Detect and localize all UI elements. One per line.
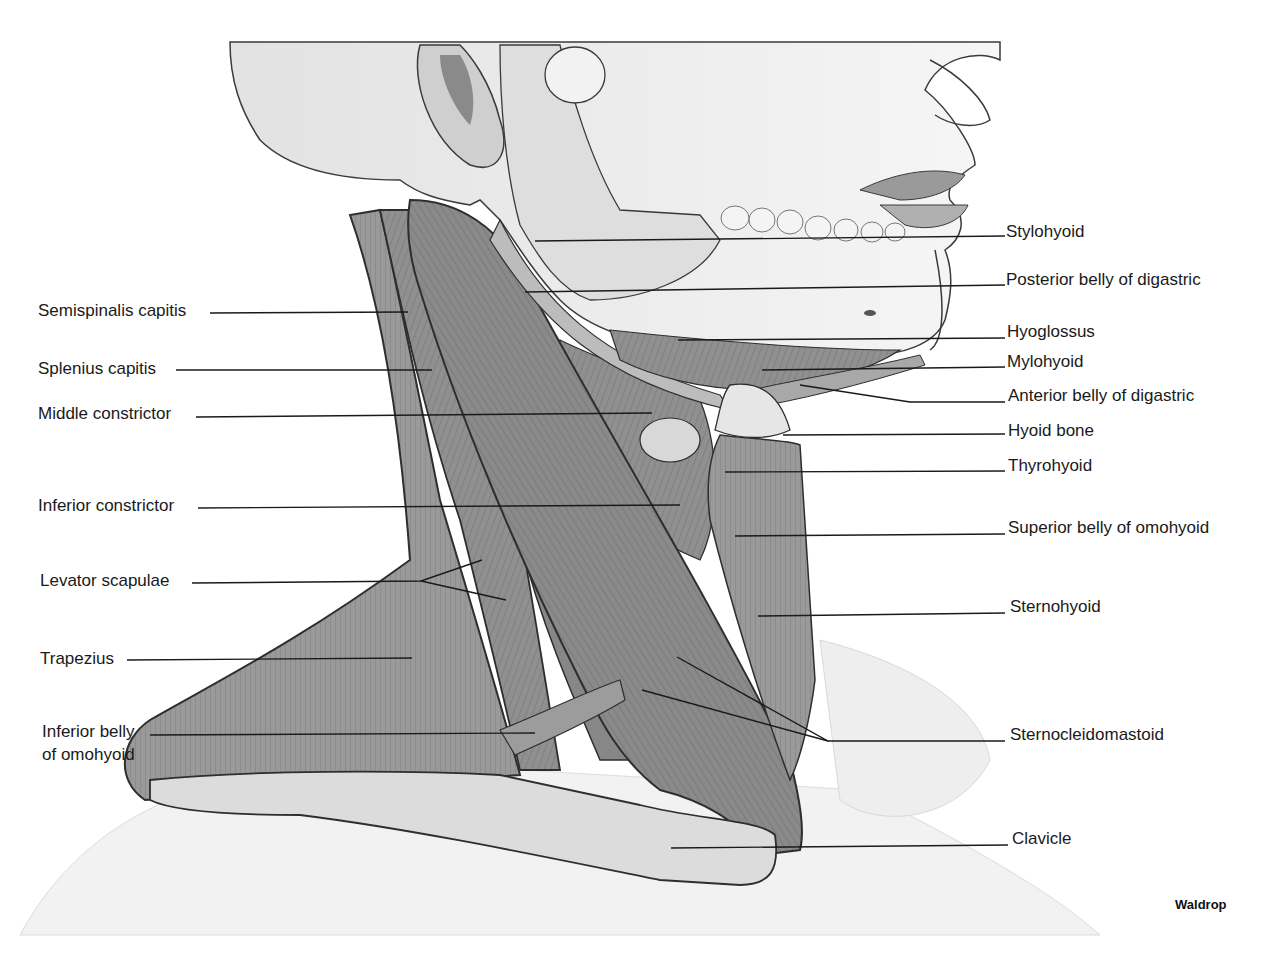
label-semispinalis-capitis: Semispinalis capitis [38, 301, 186, 321]
head-shape [230, 42, 1000, 355]
label-inferior-constrictor: Inferior constrictor [38, 496, 174, 516]
label-levator-scapulae: Levator scapulae [40, 571, 169, 591]
label-splenius-capitis: Splenius capitis [38, 359, 156, 379]
neck-illustration [0, 0, 1269, 955]
label-sternohyoid: Sternohyoid [1010, 597, 1101, 617]
label-sternocleidomastoid: Sternocleidomastoid [1010, 725, 1164, 745]
label-hyoglossus: Hyoglossus [1007, 322, 1095, 342]
label-anterior-belly-digastric: Anterior belly of digastric [1008, 386, 1194, 406]
label-thyrohyoid: Thyrohyoid [1008, 456, 1092, 476]
label-clavicle: Clavicle [1012, 829, 1072, 849]
label-stylohyoid: Stylohyoid [1006, 222, 1084, 242]
label-inferior-belly-omohyoid-line2: of omohyoid [42, 745, 135, 765]
label-hyoid-bone: Hyoid bone [1008, 421, 1094, 441]
label-middle-constrictor: Middle constrictor [38, 404, 171, 424]
label-trapezius: Trapezius [40, 649, 114, 669]
artist-credit: Waldrop [1175, 897, 1227, 912]
label-inferior-belly-omohyoid-line1: Inferior belly [42, 722, 135, 742]
label-posterior-belly-digastric: Posterior belly of digastric [1006, 270, 1201, 290]
label-mylohyoid: Mylohyoid [1007, 352, 1084, 372]
leader-hyoid-bone [783, 434, 1005, 435]
anatomy-figure: Semispinalis capitis Splenius capitis Mi… [0, 0, 1269, 955]
label-superior-belly-omohyoid: Superior belly of omohyoid [1008, 518, 1209, 538]
